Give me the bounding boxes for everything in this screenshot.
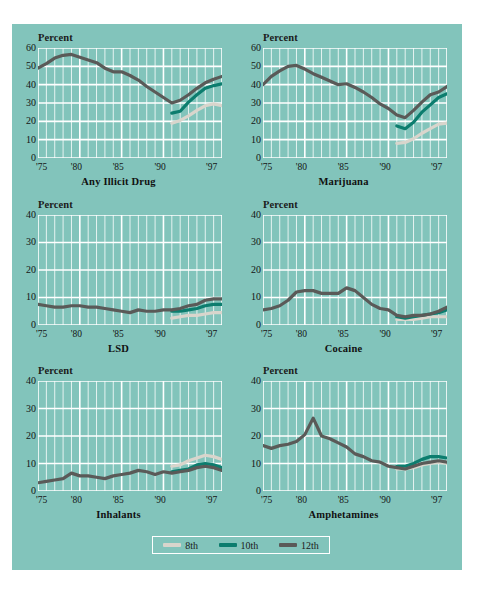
x-tick-label: '80 (71, 495, 82, 505)
x-tick-label: '97 (206, 162, 217, 172)
legend-label-10th: 10th (241, 540, 259, 551)
y-axis-title: Percent (263, 365, 298, 376)
small-multiples-grid: Percent 0102030405060 '75'80'85'90'97 An… (12, 24, 462, 524)
x-tick-label: '80 (296, 162, 307, 172)
x-tick-label: '85 (113, 329, 124, 339)
legend-swatch-12th (279, 543, 297, 547)
x-tick-label: '90 (154, 162, 165, 172)
x-tick-label: '80 (296, 495, 307, 505)
x-tick-label: '75 (36, 162, 47, 172)
plot-area-cocaine: 010203040 (263, 215, 447, 325)
y-tick-label: 30 (26, 404, 36, 414)
plot-svg (263, 48, 447, 158)
x-tick-labels: '75'80'85'90'97 (38, 162, 222, 174)
y-tick-label: 20 (26, 265, 36, 275)
x-tick-label: '97 (431, 162, 442, 172)
y-tick-label: 10 (251, 459, 261, 469)
chart-cell-lsd: Percent 010203040 '75'80'85'90'97 LSD (12, 191, 237, 358)
y-tick-label: 30 (251, 237, 261, 247)
y-tick-label: 20 (251, 431, 261, 441)
y-tick-label: 40 (251, 210, 261, 220)
plot-area-lsd: 010203040 (38, 215, 222, 325)
x-tick-label: '97 (431, 495, 442, 505)
x-tick-label: '97 (206, 329, 217, 339)
chart-cell-marijuana: Percent 0102030405060 '75'80'85'90'97 Ma… (237, 24, 462, 191)
x-tick-label: '75 (261, 162, 272, 172)
x-tick-label: '85 (113, 495, 124, 505)
chart-title: Inhalants (6, 509, 231, 520)
x-tick-label: '75 (36, 329, 47, 339)
y-tick-label: 60 (26, 43, 36, 53)
y-tick-label: 10 (251, 292, 261, 302)
plot-svg (263, 215, 447, 325)
x-tick-label: '85 (338, 495, 349, 505)
y-tick-label: 50 (251, 61, 261, 71)
x-tick-label: '90 (379, 162, 390, 172)
chart-cell-amphetamines: Percent 010203040 '75'80'85'90'97 Amphet… (237, 357, 462, 524)
chart-title: LSD (6, 343, 231, 354)
y-tick-label: 40 (251, 376, 261, 386)
x-tick-label: '75 (36, 495, 47, 505)
y-tick-labels: 010203040 (239, 375, 261, 491)
y-tick-label: 10 (26, 292, 36, 302)
y-tick-label: 10 (26, 135, 36, 145)
y-tick-label: 30 (251, 404, 261, 414)
x-tick-label: '85 (338, 162, 349, 172)
plot-svg (38, 48, 222, 158)
x-tick-label: '97 (206, 495, 217, 505)
chart-panel: Percent 0102030405060 '75'80'85'90'97 An… (12, 24, 462, 570)
x-tick-label: '80 (71, 162, 82, 172)
x-tick-label: '75 (261, 495, 272, 505)
y-tick-label: 40 (26, 376, 36, 386)
plot-area-marijuana: 0102030405060 (263, 48, 447, 158)
y-tick-label: 30 (26, 98, 36, 108)
plot-area-any-illicit-drug: 0102030405060 (38, 48, 222, 158)
x-tick-label: '90 (154, 329, 165, 339)
y-tick-label: 30 (251, 98, 261, 108)
x-tick-labels: '75'80'85'90'97 (263, 162, 447, 174)
plot-area-inhalants: 010203040 (38, 381, 222, 491)
legend-label-12th: 12th (301, 540, 319, 551)
y-axis-title: Percent (263, 199, 298, 210)
legend-label-8th: 8th (185, 540, 198, 551)
y-tick-labels: 010203040 (239, 209, 261, 325)
y-tick-label: 30 (26, 237, 36, 247)
x-tick-labels: '75'80'85'90'97 (263, 495, 447, 507)
x-tick-label: '85 (113, 162, 124, 172)
chart-cell-cocaine: Percent 010203040 '75'80'85'90'97 Cocain… (237, 191, 462, 358)
legend-swatch-8th (163, 543, 181, 547)
legend-swatch-10th (219, 543, 237, 547)
y-tick-labels: 0102030405060 (14, 42, 36, 158)
y-axis-title: Percent (263, 32, 298, 43)
x-tick-label: '85 (338, 329, 349, 339)
legend-item-12th: 12th (279, 540, 319, 551)
y-axis-title: Percent (38, 365, 73, 376)
legend-item-10th: 10th (219, 540, 259, 551)
y-axis-title: Percent (38, 199, 73, 210)
x-tick-label: '90 (154, 495, 165, 505)
x-tick-label: '97 (431, 329, 442, 339)
legend-item-8th: 8th (163, 540, 198, 551)
x-tick-label: '75 (261, 329, 272, 339)
plot-svg (38, 215, 222, 325)
x-tick-labels: '75'80'85'90'97 (38, 329, 222, 341)
x-tick-label: '90 (379, 329, 390, 339)
y-tick-labels: 010203040 (14, 209, 36, 325)
y-tick-label: 20 (26, 431, 36, 441)
y-tick-label: 40 (251, 80, 261, 90)
y-tick-label: 20 (251, 116, 261, 126)
x-tick-label: '90 (379, 495, 390, 505)
y-tick-label: 20 (251, 265, 261, 275)
plot-area-amphetamines: 010203040 (263, 381, 447, 491)
y-tick-label: 20 (26, 116, 36, 126)
y-tick-label: 50 (26, 61, 36, 71)
chart-title: Any Illicit Drug (6, 176, 231, 187)
x-tick-label: '80 (296, 329, 307, 339)
y-tick-label: 10 (251, 135, 261, 145)
y-axis-title: Percent (38, 32, 73, 43)
x-tick-labels: '75'80'85'90'97 (38, 495, 222, 507)
chart-title: Amphetamines (231, 509, 456, 520)
y-tick-label: 40 (26, 210, 36, 220)
x-tick-label: '80 (71, 329, 82, 339)
plot-svg (263, 381, 447, 491)
